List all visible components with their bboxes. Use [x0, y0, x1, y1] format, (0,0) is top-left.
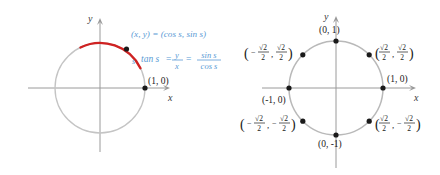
left-point-terminal [124, 46, 129, 51]
left-point-initial [142, 85, 147, 90]
right-x-axis-label: x [413, 92, 419, 103]
q3-comma: , [267, 120, 269, 130]
figure-canvas: y x (x, y) = (cos s, sin s) (1, 0) s tan… [0, 0, 440, 175]
q3-paren-close: ) [291, 117, 296, 133]
label-point-0-1: (0, 1) [319, 25, 340, 36]
q3-y-numerator: √2 [280, 114, 288, 123]
q4-comma: , [392, 120, 394, 130]
label-point-neg1-0: (-1, 0) [262, 95, 286, 106]
q4-paren-close: ) [416, 117, 421, 133]
formula-frac2-denominator: cos s [201, 61, 218, 71]
point-q2 [300, 52, 305, 57]
formula-frac1-numerator: y [174, 50, 179, 60]
label-point-q1: ( √2 2 , √2 2 ) [375, 43, 414, 62]
q2-x-denominator: 2 [261, 53, 265, 62]
q3-x-sign: − [247, 119, 252, 128]
q1-comma: , [392, 49, 394, 59]
point-q1 [367, 52, 372, 57]
q2-y-denominator: 2 [279, 53, 283, 62]
q3-x-numerator: √2 [255, 114, 263, 123]
q4-y-sign: − [397, 119, 402, 128]
left-panel: y x (x, y) = (cos s, sin s) (1, 0) s tan… [28, 13, 221, 152]
tangent-formula: tan s = y x = sin s cos s [141, 50, 221, 71]
q2-paren-close: ) [288, 46, 293, 62]
formula-frac1-denominator: x [174, 61, 179, 71]
q3-paren-open: ( [240, 117, 245, 133]
formula-frac2-numerator: sin s [201, 50, 217, 60]
label-point-q4: ( √2 2 , − √2 2 ) [375, 114, 421, 133]
q3-y-sign: − [272, 119, 277, 128]
label-point-q2: ( − √2 2 , √2 2 ) [244, 43, 293, 62]
q1-x-denominator: 2 [382, 53, 386, 62]
q4-x-denominator: 2 [382, 124, 386, 133]
arc-label-s: s [132, 57, 135, 66]
q4-y-numerator: √2 [405, 114, 413, 123]
q2-paren-open: ( [244, 46, 249, 62]
left-x-axis-label: x [167, 92, 173, 103]
q4-x-numerator: √2 [380, 114, 388, 123]
point-0-neg1 [333, 132, 338, 137]
q1-x-numerator: √2 [380, 43, 388, 52]
right-panel: y x (0, 1) (1, 0) (-1, 0) (0, -1) ( √2 2… [240, 11, 421, 168]
q2-x-sign: − [251, 48, 256, 57]
left-y-axis-label: y [87, 13, 93, 24]
point-1-0 [380, 85, 385, 90]
left-initial-point-label: (1, 0) [148, 76, 169, 87]
formula-lhs: tan s [141, 54, 160, 64]
label-point-1-0: (1, 0) [387, 74, 408, 85]
q4-y-denominator: 2 [407, 124, 411, 133]
q2-y-numerator: √2 [277, 43, 285, 52]
right-y-axis-label: y [323, 11, 329, 22]
left-terminal-point-label: (x, y) = (cos s, sin s) [131, 29, 206, 39]
trigonometry-figure: y x (x, y) = (cos s, sin s) (1, 0) s tan… [0, 0, 440, 175]
q1-y-denominator: 2 [400, 53, 404, 62]
q3-x-denominator: 2 [257, 124, 261, 133]
formula-equals-2: = [186, 54, 191, 64]
point-q3 [300, 119, 305, 124]
label-point-0-neg1: (0, -1) [318, 139, 342, 150]
point-q4 [367, 119, 372, 124]
label-point-q3: ( − √2 2 , − √2 2 ) [240, 114, 296, 133]
q2-comma: , [271, 49, 273, 59]
point-neg1-0 [286, 85, 291, 90]
point-0-1 [333, 38, 338, 43]
formula-equals-1: = [166, 54, 171, 64]
q1-paren-close: ) [409, 46, 414, 62]
q2-x-numerator: √2 [259, 43, 267, 52]
q1-y-numerator: √2 [398, 43, 406, 52]
q3-y-denominator: 2 [282, 124, 286, 133]
